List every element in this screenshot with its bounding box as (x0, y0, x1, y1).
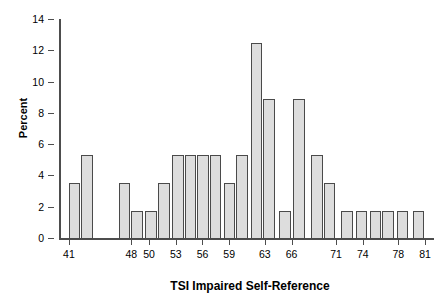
x-tick-mark (202, 240, 203, 245)
y-tick-label: 0 (0, 232, 44, 245)
histogram-bar (158, 183, 170, 239)
x-tick-mark (363, 240, 364, 245)
plot-area (60, 20, 434, 239)
x-tick-mark (149, 240, 150, 245)
histogram-bar (311, 155, 323, 239)
histogram-bar (81, 155, 93, 239)
x-tick-mark (425, 240, 426, 245)
y-tick-label: 2 (0, 201, 44, 214)
histogram-bar (413, 211, 425, 239)
histogram-bar (397, 211, 409, 239)
y-tick-label: 6 (0, 138, 44, 151)
x-tick-mark (229, 240, 230, 245)
histogram-bar (119, 183, 131, 239)
y-tick-mark (48, 207, 54, 208)
x-tick-label: 74 (343, 248, 383, 261)
x-tick-mark (292, 240, 293, 245)
y-tick-label: 14 (0, 13, 44, 26)
x-axis-title: TSI Impaired Self-Reference (60, 279, 440, 293)
x-tick-label: 59 (209, 248, 249, 261)
histogram-bar (341, 211, 353, 239)
y-tick-mark (48, 144, 54, 145)
histogram-bar (370, 211, 382, 239)
x-tick-label: 66 (272, 248, 312, 261)
histogram-bar (185, 155, 197, 239)
histogram-bar (210, 155, 222, 239)
histogram-bar (236, 155, 248, 239)
y-tick-mark (48, 175, 54, 176)
histogram-bar (197, 155, 209, 239)
y-tick-mark (48, 82, 54, 83)
y-tick-label: 4 (0, 169, 44, 182)
y-tick-label: 10 (0, 76, 44, 89)
histogram-bar (324, 183, 336, 239)
histogram-bar (279, 211, 291, 239)
y-tick-label: 8 (0, 107, 44, 120)
x-tick-mark (69, 240, 70, 245)
y-tick-mark (48, 50, 54, 51)
histogram-bar (382, 211, 394, 239)
x-tick-label: 41 (49, 248, 89, 261)
x-tick-mark (398, 240, 399, 245)
y-tick-label: 12 (0, 44, 44, 57)
histogram-bar (131, 211, 143, 239)
histogram-bar (356, 211, 368, 239)
histogram-bar (145, 211, 157, 239)
histogram-bar (172, 155, 184, 239)
histogram-bar (293, 99, 305, 239)
histogram-bar (263, 99, 275, 239)
histogram-figure: Percent TSI Impaired Self-Reference 0246… (0, 0, 448, 303)
x-tick-mark (131, 240, 132, 245)
histogram-bar (224, 183, 236, 239)
x-tick-mark (176, 240, 177, 245)
y-tick-mark (48, 113, 54, 114)
x-tick-mark (265, 240, 266, 245)
y-tick-mark (48, 19, 54, 20)
y-tick-mark (48, 238, 54, 239)
x-tick-label: 81 (405, 248, 445, 261)
x-tick-mark (336, 240, 337, 245)
histogram-bar (251, 43, 263, 239)
histogram-bar (69, 183, 81, 239)
